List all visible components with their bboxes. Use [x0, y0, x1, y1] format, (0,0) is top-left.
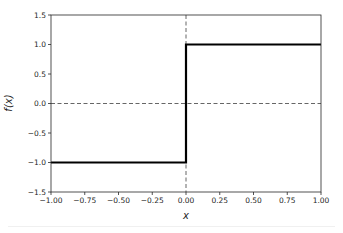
x-tick-label: −0.50: [107, 196, 130, 205]
x-tick-label: 0.75: [279, 196, 296, 205]
divider: [8, 226, 335, 227]
x-tick-label: 0.50: [245, 196, 262, 205]
y-tick-label: 0.5: [34, 70, 46, 79]
x-tick-label: 1.00: [313, 196, 330, 205]
x-axis-label: x: [182, 210, 189, 221]
x-tick-label: −0.75: [73, 196, 96, 205]
x-tick-label: −0.25: [141, 196, 164, 205]
x-tick-label: 0.25: [211, 196, 228, 205]
step-function-chart: −1.00−0.75−0.50−0.250.000.250.500.751.00…: [0, 0, 343, 233]
y-tick-label: −1.0: [28, 158, 46, 167]
x-axis-ticks: −1.00−0.75−0.50−0.250.000.250.500.751.00: [40, 192, 330, 205]
x-tick-label: 0.00: [178, 196, 195, 205]
y-axis-ticks: −1.5−1.0−0.50.00.51.01.5: [28, 11, 51, 197]
x-tick-label: −1.00: [40, 196, 63, 205]
y-tick-label: −0.5: [28, 129, 46, 138]
y-tick-label: −1.5: [28, 188, 46, 197]
y-tick-label: 1.5: [34, 11, 46, 20]
y-axis-label: f(x): [3, 94, 14, 111]
y-tick-label: 1.0: [34, 40, 46, 49]
y-tick-label: 0.0: [34, 99, 46, 108]
